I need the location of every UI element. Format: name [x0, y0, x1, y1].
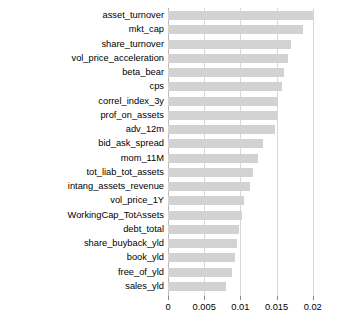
feature-importance-bar-chart: asset_turnovermkt_capshare_turnovervol_p… — [0, 0, 346, 332]
bar — [168, 111, 277, 120]
bar — [168, 97, 278, 106]
y-axis-label: debt_total — [0, 225, 164, 234]
bar-row — [168, 154, 258, 163]
bar-row — [168, 11, 313, 20]
y-axis-label: vol_price_1Y — [0, 196, 164, 205]
x-tick-mark — [313, 296, 314, 300]
y-axis-label: share_turnover — [0, 40, 164, 49]
y-axis-label: bid_ask_spread — [0, 139, 164, 148]
bar — [168, 82, 282, 91]
bar-series — [168, 8, 320, 296]
x-tick-label: 0.005 — [193, 302, 216, 312]
y-axis-label: share_buyback_yld — [0, 239, 164, 248]
bar — [168, 168, 253, 177]
x-tick-mark — [277, 296, 278, 300]
bar-row — [168, 125, 275, 134]
bar — [168, 139, 263, 148]
bar-row — [168, 68, 284, 77]
x-tick-mark — [240, 296, 241, 300]
bar-row — [168, 225, 239, 234]
y-axis-label: cps — [0, 82, 164, 91]
x-tick-label: 0.015 — [265, 302, 288, 312]
y-axis-label: free_of_yld — [0, 268, 164, 277]
bar-row — [168, 239, 237, 248]
y-axis-label: vol_price_acceleration — [0, 54, 164, 63]
y-axis-label: mkt_cap — [0, 25, 164, 34]
bar — [168, 54, 288, 63]
bar — [168, 40, 291, 49]
bar-row — [168, 111, 277, 120]
bar-row — [168, 282, 226, 291]
y-axis-label: mom_11M — [0, 154, 164, 163]
bar — [168, 282, 226, 291]
y-axis-category-labels: asset_turnovermkt_capshare_turnovervol_p… — [0, 8, 164, 296]
y-axis-label: prof_on_assets — [0, 111, 164, 120]
x-tick-label: 0.02 — [304, 302, 322, 312]
y-axis-label: sales_yld — [0, 282, 164, 291]
y-axis-label: tot_liab_tot_assets — [0, 168, 164, 177]
bar — [168, 225, 239, 234]
y-axis-label: WorkingCap_TotAssets — [0, 211, 164, 220]
bar-row — [168, 182, 250, 191]
bar — [168, 268, 232, 277]
bar — [168, 253, 235, 262]
bar-row — [168, 211, 242, 220]
y-axis-label: book_yld — [0, 253, 164, 262]
bar-row — [168, 54, 288, 63]
bar — [168, 211, 242, 220]
y-axis-label: correl_index_3y — [0, 97, 164, 106]
bar-row — [168, 25, 303, 34]
x-axis-ticks: 00.0050.010.0150.02 — [168, 296, 320, 326]
bar-row — [168, 139, 263, 148]
bar-row — [168, 168, 253, 177]
bar-row — [168, 97, 278, 106]
bar — [168, 25, 303, 34]
y-axis-label: adv_12m — [0, 125, 164, 134]
bar — [168, 182, 250, 191]
bar-row — [168, 40, 291, 49]
bar — [168, 11, 313, 20]
bar — [168, 154, 258, 163]
x-tick-mark — [204, 296, 205, 300]
x-tick-label: 0.01 — [231, 302, 249, 312]
x-tick-label: 0 — [165, 302, 170, 312]
bar-row — [168, 268, 232, 277]
x-tick-mark — [168, 296, 169, 300]
y-axis-label: beta_bear — [0, 68, 164, 77]
y-axis-label: intang_assets_revenue — [0, 182, 164, 191]
bar-row — [168, 196, 244, 205]
bar — [168, 239, 237, 248]
bar-row — [168, 253, 235, 262]
bar — [168, 68, 284, 77]
y-axis-label: asset_turnover — [0, 11, 164, 20]
bar-row — [168, 82, 282, 91]
bar — [168, 125, 275, 134]
bar — [168, 196, 244, 205]
plot-area — [168, 8, 320, 296]
